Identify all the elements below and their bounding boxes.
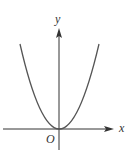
origin-label: O [46,133,55,145]
parabola-plot [0,0,132,156]
y-axis-label: y [55,13,60,25]
x-axis-label: x [119,122,124,134]
